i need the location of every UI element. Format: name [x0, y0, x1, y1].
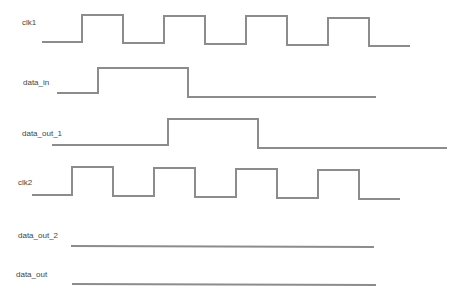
waveform-data-out-1 — [52, 119, 447, 148]
waveform-data-out-2 — [71, 246, 374, 247]
waveform-data-in — [57, 68, 376, 97]
timing-diagram-canvas — [0, 0, 460, 299]
waveform-data-out — [72, 284, 376, 285]
waveform-clk2 — [32, 167, 400, 199]
waveform-clk1 — [42, 15, 410, 46]
